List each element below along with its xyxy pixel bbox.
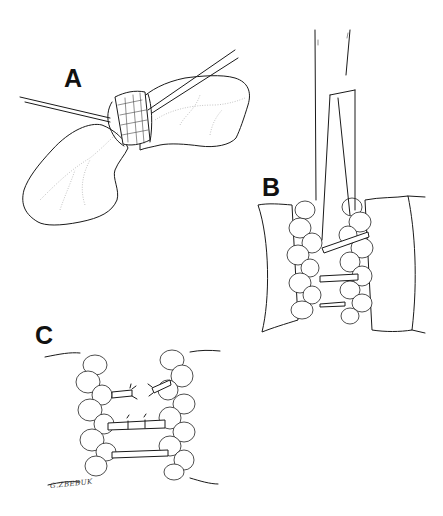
panel-label-b: B: [262, 175, 280, 200]
panel-label-a: A: [64, 66, 82, 91]
panel-a-drawing: [20, 50, 249, 225]
panel-b-drawing: [258, 30, 425, 333]
illustration-canvas: A B C G.ZBEBUK: [0, 0, 443, 516]
panel-label-c: C: [35, 323, 53, 348]
panel-c-drawing: [45, 350, 220, 485]
